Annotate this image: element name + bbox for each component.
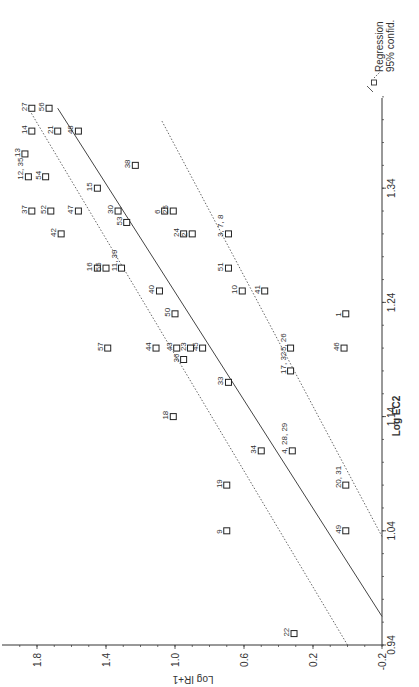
data-point: 36 [172, 353, 187, 362]
data-point: 41 [253, 285, 268, 294]
point-square-icon [258, 448, 264, 454]
point-square-icon [172, 311, 178, 317]
data-point: 42 [49, 227, 64, 236]
data-point: 27 [20, 102, 35, 111]
point-label: 40 [147, 285, 156, 294]
point-label: 56 [37, 102, 46, 111]
data-point: 12, 35 [16, 157, 31, 180]
point-label: 44 [144, 342, 153, 351]
data-point: 17, 32 [279, 351, 294, 374]
data-point: 19 [215, 479, 230, 488]
x-tick-label: 1.24 [386, 292, 397, 312]
point-label: 19 [215, 479, 224, 488]
point-square-icon [225, 265, 231, 271]
point-label: 46 [332, 342, 341, 351]
point-label: 51 [216, 262, 225, 271]
point-label: 15 [85, 182, 94, 191]
data-points: 27561421481312, 355415383752473062542532… [13, 102, 349, 637]
data-point: 37 [20, 205, 35, 214]
point-square-icon [46, 105, 52, 111]
legend-regression-label: Regression [374, 21, 385, 72]
point-label: 9 [215, 529, 224, 534]
point-label: 18 [161, 410, 170, 419]
point-label: 53 [115, 216, 124, 225]
point-label: 41 [253, 285, 262, 294]
point-square-icon [291, 631, 297, 637]
point-square-icon [288, 368, 294, 374]
point-square-icon [48, 208, 54, 214]
point-label: 33 [216, 376, 225, 385]
point-square-icon [22, 151, 28, 157]
data-point: 15 [85, 182, 100, 191]
data-point: 47 [66, 205, 81, 214]
point-square-icon [29, 105, 35, 111]
point-square-icon [132, 162, 138, 168]
scatter-plot: 27561421481312, 355415383752473062542532… [0, 0, 419, 687]
point-label: 47 [66, 205, 75, 214]
point-square-icon [153, 345, 159, 351]
data-point: 30 [106, 205, 121, 214]
point-label: 17, 32 [279, 351, 288, 374]
point-square-icon [225, 379, 231, 385]
point-square-icon [29, 128, 35, 134]
y-tick-label: -0.2 [377, 653, 388, 671]
data-point: 48 [66, 125, 81, 134]
point-square-icon [119, 265, 125, 271]
data-point: 10 [230, 285, 245, 294]
data-point: 5, 26 [279, 333, 294, 351]
regression-line [58, 108, 382, 616]
x-tick-label: 1.34 [386, 178, 397, 198]
point-label: 52 [39, 205, 48, 214]
point-square-icon [156, 288, 162, 294]
data-point: 44 [144, 342, 159, 351]
point-square-icon [103, 265, 109, 271]
point-square-icon [289, 448, 295, 454]
y-tick-label: 1.0 [170, 653, 181, 667]
point-label: 34 [249, 444, 258, 453]
point-square-icon [343, 528, 349, 534]
point-label: 36 [172, 353, 181, 362]
point-square-icon [341, 345, 347, 351]
confidence-lower-line [161, 120, 382, 537]
point-square-icon [94, 185, 100, 191]
y-tick-label: 0.2 [308, 653, 319, 667]
data-point: 22 [282, 627, 297, 636]
data-point: 43 [165, 342, 180, 351]
data-point: 45 [191, 342, 206, 351]
point-label: 4, 28, 29 [280, 422, 289, 454]
point-square-icon [29, 208, 35, 214]
y-tick-label: 1.4 [101, 653, 112, 667]
data-point: 34 [249, 444, 264, 453]
data-point: 25 [161, 205, 176, 214]
data-point: 38 [123, 159, 138, 168]
point-label: 27 [20, 102, 29, 111]
x-tick-label: 1.04 [386, 521, 397, 541]
point-square-icon [288, 345, 294, 351]
data-point: 49 [334, 524, 349, 533]
data-point: 46 [332, 342, 347, 351]
data-point: 14 [20, 125, 35, 134]
point-square-icon [239, 288, 245, 294]
point-square-icon [43, 174, 49, 180]
point-label: 14 [20, 125, 29, 134]
point-label: 12, 35 [16, 157, 25, 180]
legend-square-icon [372, 80, 377, 85]
axis-ticks: 0.941.041.141.241.34-0.20.20.61.01.41.8 [20, 97, 397, 670]
regression-lines [28, 108, 382, 645]
x-tick-label: 0.94 [386, 635, 397, 655]
point-label: 10 [230, 285, 239, 294]
point-label: 42 [49, 227, 58, 236]
data-point: 21 [46, 125, 61, 134]
point-label: 13 [13, 147, 22, 156]
data-point: 1 [334, 311, 349, 317]
data-point: 11, 39 [110, 249, 125, 271]
point-square-icon [224, 482, 230, 488]
point-square-icon [224, 528, 230, 534]
y-tick-label: 1.8 [32, 653, 43, 667]
point-square-icon [343, 311, 349, 317]
point-label: 23 [179, 342, 188, 351]
point-square-icon [105, 345, 111, 351]
point-label: 3, 7, 8 [216, 214, 225, 237]
plot-frame [2, 98, 382, 645]
y-axis-title: Log IR+1 [172, 674, 213, 685]
